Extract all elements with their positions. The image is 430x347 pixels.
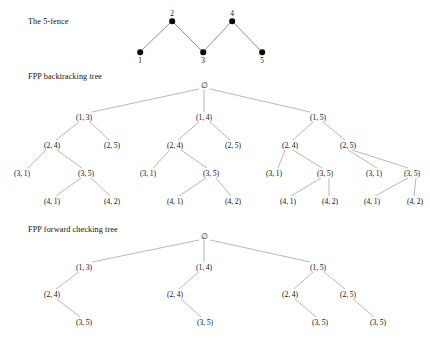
backtracking-tree-node: (4, 1) (167, 197, 183, 206)
backtracking-edge-13 (278, 150, 285, 168)
backtracking-edge-9 (28, 150, 46, 168)
backtracking-edge-18 (91, 178, 110, 196)
forward-checking-tree-node: (3, 5) (312, 318, 328, 327)
backtracking-edge-6 (210, 122, 230, 140)
fence-edge-2 (203, 21, 232, 52)
forward-checking-tree-node: (1, 4) (196, 263, 212, 272)
fence-vertex-1 (137, 49, 143, 55)
fence-vertex-5 (259, 49, 265, 55)
forward-checking-edge-4 (179, 272, 199, 289)
backtracking-tree-node: (4, 1) (44, 197, 60, 206)
backtracking-tree-node: (3, 5) (404, 169, 420, 178)
caption-forward-checking-tree: FPP forward checking tree (28, 225, 118, 234)
backtracking-edge-17 (56, 178, 81, 196)
forward-checking-tree-node: (3, 5) (197, 318, 213, 327)
forward-checking-tree-node: (2, 4) (167, 290, 183, 299)
fence-vertex-label-2: 2 (170, 9, 174, 18)
fence-vertex-4 (229, 18, 235, 24)
backtracking-edge-20 (216, 178, 231, 196)
forward-checking-tree-node: (3, 5) (370, 318, 386, 327)
backtracking-tree-node: (3, 5) (78, 169, 94, 178)
forward-checking-tree-node: (1, 5) (310, 263, 326, 272)
backtracking-tree-node: (3, 1) (140, 169, 156, 178)
backtracking-tree-node: (3, 5) (317, 169, 333, 178)
backtracking-tree-node: (2, 5) (340, 141, 356, 150)
backtracking-edge-15 (348, 150, 377, 168)
forward-checking-tree-node: (2, 4) (282, 290, 298, 299)
backtracking-edge-16 (352, 150, 408, 168)
backtracking-tree-node: (4, 2) (225, 197, 241, 206)
fence-edge-0 (140, 21, 172, 52)
backtracking-tree-node: (3, 5) (203, 169, 219, 178)
backtracking-edge-19 (179, 178, 206, 196)
fence-vertex-label-5: 5 (260, 56, 264, 65)
fence-vertex-3 (200, 49, 206, 55)
backtracking-tree-node: (3, 1) (14, 169, 30, 178)
forward-checking-edge-0 (92, 240, 199, 262)
backtracking-root-label: ∅ (201, 81, 208, 90)
forward-checking-edge-group (56, 240, 374, 317)
backtracking-tree-node: (4, 2) (322, 197, 338, 206)
fence-edge-1 (172, 21, 203, 52)
backtracking-tree-node: (3, 1) (366, 169, 382, 178)
backtracking-tree-node: (1, 3) (76, 113, 92, 122)
backtracking-edge-23 (375, 178, 408, 196)
fence-vertex-2 (169, 18, 175, 24)
backtracking-tree-node: (2, 5) (104, 141, 120, 150)
backtracking-tree-node: (3, 1) (266, 169, 282, 178)
backtracking-edge-group (28, 89, 416, 196)
backtracking-tree-node: (1, 4) (196, 113, 212, 122)
backtracking-tree-node: (2, 4) (44, 141, 60, 150)
forward-checking-tree-node: (3, 5) (76, 318, 92, 327)
backtracking-edge-24 (414, 178, 416, 196)
backtracking-edge-2 (210, 89, 310, 112)
forward-checking-root-label: ∅ (201, 232, 208, 241)
forward-checking-tree-node: (1, 3) (76, 263, 92, 272)
backtracking-tree-node: (4, 2) (104, 197, 120, 206)
fence-vertex-label-1: 1 (138, 56, 142, 65)
forward-checking-tree-node: (2, 5) (340, 290, 356, 299)
backtracking-tree-node: (1, 5) (310, 113, 326, 122)
backtracking-edge-5 (178, 122, 199, 140)
forward-checking-edge-3 (56, 272, 79, 289)
backtracking-edge-8 (323, 122, 345, 140)
forward-checking-edge-5 (294, 272, 313, 289)
backtracking-tree-node: (2, 5) (225, 141, 241, 150)
fence-edge-3 (232, 21, 262, 52)
backtracking-tree-node: (2, 4) (282, 141, 298, 150)
backtracking-tree-node: (4, 1) (280, 197, 296, 206)
backtracking-edge-0 (92, 89, 199, 112)
forward-checking-tree-node: (2, 4) (44, 290, 60, 299)
forward-checking-edge-10 (353, 299, 374, 317)
backtracking-edge-7 (293, 122, 313, 140)
backtracking-tree-node: (4, 1) (364, 197, 380, 206)
fence-vertex-label-4: 4 (230, 9, 234, 18)
backtracking-edge-3 (56, 122, 79, 140)
backtracking-edge-21 (291, 178, 321, 196)
fence-edge-group (140, 21, 262, 52)
forward-checking-edge-7 (57, 299, 80, 317)
backtracking-edge-11 (153, 150, 170, 168)
backtracking-edge-4 (90, 122, 109, 140)
fence-vertex-label-3: 3 (201, 56, 205, 65)
forward-checking-edge-9 (295, 299, 316, 317)
forward-checking-edge-2 (210, 240, 310, 262)
forward-checking-edge-6 (324, 272, 345, 289)
backtracking-tree-node: (4, 2) (407, 197, 423, 206)
caption-fence: The 5-fence (28, 17, 68, 26)
caption-backtracking-tree: FPP backtracking tree (28, 72, 102, 81)
backtracking-edge-14 (293, 150, 322, 168)
backtracking-tree-node: (2, 4) (167, 141, 183, 150)
figure-canvas: The 5-fence FPP backtracking tree FPP fo… (0, 0, 430, 347)
backtracking-edge-10 (57, 150, 82, 168)
backtracking-edge-12 (181, 150, 207, 168)
forward-checking-edge-8 (181, 299, 201, 317)
